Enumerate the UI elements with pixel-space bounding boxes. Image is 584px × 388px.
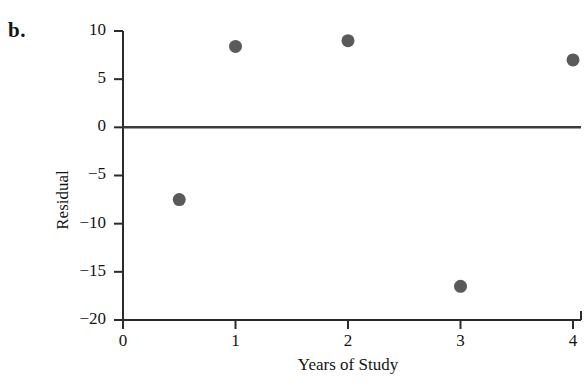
data-point [173, 193, 186, 206]
y-tick-label: 5 [98, 68, 107, 87]
tick-labels-group: 1050−5−10−15−2001234 [79, 20, 577, 350]
data-point [229, 40, 242, 53]
y-tick-label: −15 [79, 261, 106, 280]
x-tick-label: 3 [456, 331, 465, 350]
x-tick-label: 2 [344, 331, 353, 350]
x-tick-label: 1 [231, 331, 240, 350]
data-point [567, 53, 580, 66]
x-tick-label: 4 [569, 331, 578, 350]
y-tick-label: −20 [79, 309, 106, 328]
data-points-group [173, 34, 580, 293]
data-point [342, 34, 355, 47]
data-point [454, 280, 467, 293]
y-tick-label: 10 [89, 20, 106, 39]
x-tick-label: 0 [119, 331, 128, 350]
residual-plot-figure: b. Residual Years of Study 1050−5−10−15−… [0, 0, 584, 388]
scatter-plot-canvas: 1050−5−10−15−2001234 [0, 0, 584, 388]
y-tick-label: −10 [79, 213, 106, 232]
y-tick-label: −5 [88, 164, 106, 183]
axes-group [114, 31, 581, 329]
y-tick-label: 0 [98, 116, 107, 135]
